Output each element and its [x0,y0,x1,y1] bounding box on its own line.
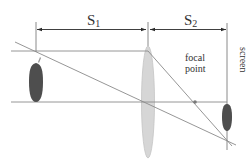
lens-diagram: S1 S2 focal point screen [0,0,246,164]
s1-label: S1 [87,12,100,29]
screen-label: screen [238,47,246,73]
s2-label: S2 [184,12,197,29]
s2-dimension-arrow [150,28,226,32]
inverted-image [222,104,232,131]
focal-point-label: focal point [185,52,208,74]
focal-point-marker [193,100,197,104]
object [29,57,43,102]
s1-dimension-arrow [37,28,146,32]
